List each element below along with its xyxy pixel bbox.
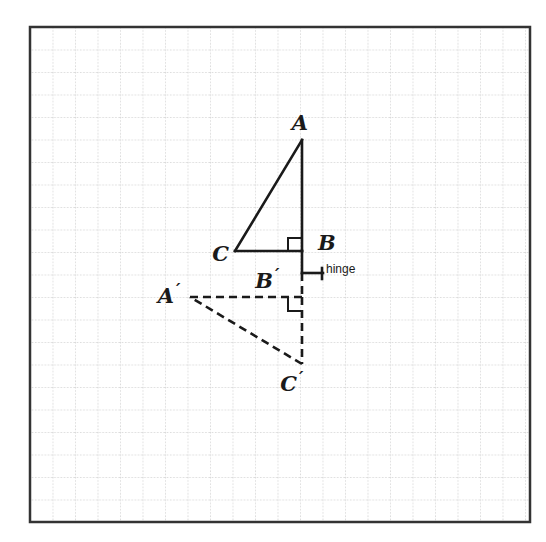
label-C: C	[212, 241, 229, 266]
label-C-prime: C	[280, 371, 297, 396]
label-A-prime-mark: ′	[176, 279, 181, 299]
geometry-figure: A B C A ′ B ′ C ′ hinge	[0, 0, 546, 542]
label-B-prime: B	[254, 268, 273, 293]
diagram-canvas: A B C A ′ B ′ C ′ hinge	[0, 0, 546, 542]
label-B-prime-mark: ′	[275, 264, 280, 284]
label-B: B	[317, 230, 336, 255]
label-C-prime-mark: ′	[299, 367, 304, 387]
grid-area	[30, 27, 530, 522]
label-A-prime: A	[156, 283, 174, 308]
label-hinge: hinge	[326, 262, 356, 276]
label-A: A	[290, 110, 308, 135]
